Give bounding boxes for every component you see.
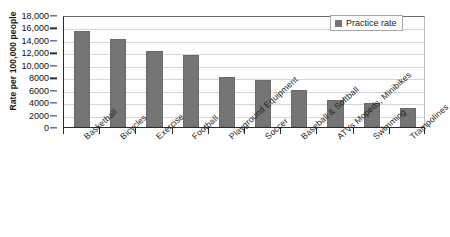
- bar: [146, 51, 162, 127]
- bar: [291, 90, 307, 127]
- y-tick-label: 0: [44, 123, 49, 133]
- y-tick-mark: [50, 115, 57, 116]
- legend: Practice rate: [330, 15, 403, 31]
- y-tick-mark: [50, 127, 57, 128]
- y-tick-mark: [50, 90, 57, 91]
- y-tick-label: 18,000: [21, 11, 49, 21]
- y-tick-mark: [50, 53, 57, 54]
- legend-label-practice-rate: Practice rate: [346, 18, 397, 28]
- y-tick-mark: [50, 102, 57, 103]
- y-tick-label: 4000: [29, 98, 49, 108]
- x-axis-labels: BasketballBicyclesExerciseFootballPlaygr…: [0, 134, 436, 237]
- y-tick-mark: [50, 78, 57, 79]
- y-tick-mark: [50, 40, 57, 41]
- legend-swatch-practice-rate: [335, 20, 342, 27]
- y-tick-label: 10,000: [21, 61, 49, 71]
- y-tick-label: 16,000: [21, 23, 49, 33]
- bar: [219, 77, 235, 127]
- bar: [183, 55, 199, 127]
- y-tick-mark: [50, 28, 57, 29]
- y-tick-label: 12,000: [21, 48, 49, 58]
- bar: [74, 31, 90, 127]
- y-tick-mark: [50, 65, 57, 66]
- y-tick-label: 6000: [29, 86, 49, 96]
- y-tick-label: 14,000: [21, 36, 49, 46]
- y-tick-label: 8000: [29, 73, 49, 83]
- y-tick-mark: [50, 15, 57, 16]
- y-tick-label: 2000: [29, 111, 49, 121]
